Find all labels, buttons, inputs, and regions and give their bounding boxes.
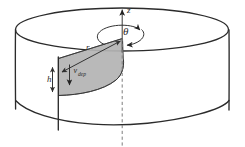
cylindrical-tank-figure: z θ r h v dep	[0, 0, 245, 147]
label-velocity: v	[74, 66, 78, 75]
theta-arc-back	[127, 30, 144, 46]
label-r: r	[86, 42, 90, 52]
shaded-radial-element	[59, 39, 124, 96]
label-theta: θ	[123, 25, 129, 37]
label-z-axis: z	[126, 5, 131, 15]
figure-canvas: z θ r h v dep	[0, 0, 245, 147]
shaded-slab-face	[59, 39, 124, 96]
label-h: h	[47, 74, 52, 84]
label-velocity-subscript: dep	[78, 71, 86, 77]
